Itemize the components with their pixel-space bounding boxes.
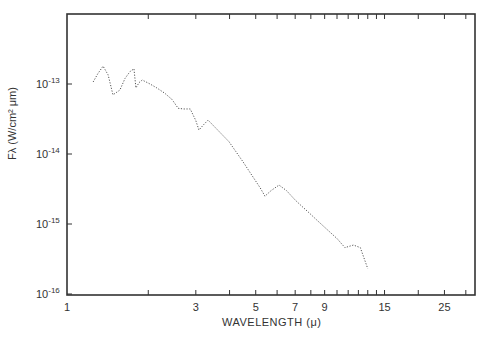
x-tick-label: 15	[378, 301, 390, 313]
x-tick-label: 25	[438, 301, 450, 313]
x-tick-label: 5	[253, 301, 259, 313]
x-tick-label: 1	[64, 301, 70, 313]
y-tick-label: 10-14	[36, 146, 60, 160]
x-tick-label: 3	[193, 301, 199, 313]
y-tick-label: 10-16	[36, 286, 60, 300]
y-tick-label: 10-13	[36, 76, 60, 90]
y-axis-label: Fλ (W/cm² μm)	[6, 87, 18, 160]
y-tick-label: 10-15	[36, 216, 60, 230]
x-tick-label: 7	[292, 301, 298, 313]
spectrum-chart: 135791525 10-1310-1410-1510-16	[0, 0, 489, 338]
x-tick-label: 9	[322, 301, 328, 313]
x-axis-label: WAVELENGTH (μ)	[222, 316, 322, 328]
plot-frame	[67, 14, 475, 295]
data-series	[93, 66, 368, 269]
x-axis-ticks: 135791525	[64, 14, 466, 313]
